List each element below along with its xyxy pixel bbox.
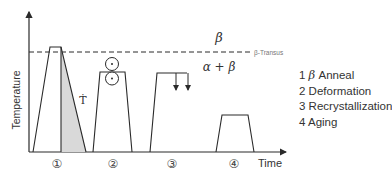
beta-transus-label: β-Transus <box>254 49 284 57</box>
step-marker-3: ③ <box>167 157 178 171</box>
y-axis-label: Temperature <box>10 70 22 129</box>
alpha-beta-phase-label: α + β <box>203 60 236 74</box>
legend-number: 4 <box>299 116 305 128</box>
step-marker-4: ④ <box>229 157 240 171</box>
legend-item-3: 3 Recrystallization <box>299 99 392 115</box>
legend-text: Recrystallization <box>309 100 392 112</box>
cooling-rate-label: Ṫ <box>79 93 87 107</box>
legend-number: 2 <box>299 85 305 97</box>
step-3-profile <box>150 73 187 152</box>
legend: 1 β Anneal 2 Deformation 3 Recrystalliza… <box>299 68 392 130</box>
legend-item-1: 1 β Anneal <box>299 68 392 84</box>
beta-phase-label: β <box>214 30 223 45</box>
legend-number: 3 <box>299 100 305 112</box>
legend-text: Deformation <box>309 85 372 97</box>
legend-text: Anneal <box>315 69 354 81</box>
legend-number: 1 <box>299 69 305 81</box>
rolling-icon <box>106 58 119 86</box>
legend-item-2: 2 Deformation <box>299 84 392 100</box>
x-axis-label: Time <box>258 157 282 169</box>
step-4-profile <box>216 115 254 152</box>
step-marker-1: ① <box>52 157 63 171</box>
legend-item-4: 4 Aging <box>299 115 392 131</box>
legend-text: Aging <box>308 116 337 128</box>
step-marker-2: ② <box>108 157 119 171</box>
